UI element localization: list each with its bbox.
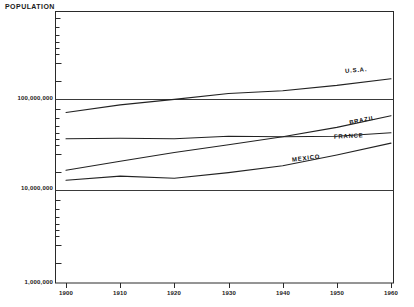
population-line-chart: POPULATION 100,000,000 10,000,000 1,000,… [0,0,414,307]
y-axis-minor-ticks [56,19,62,264]
plot-frame [56,12,394,284]
data-series [66,79,391,181]
plot-border [56,12,394,284]
series-line-france [66,133,391,139]
x-axis-ticks [67,283,392,288]
series-line-brazil [66,116,391,171]
chart-canvas [0,0,414,307]
series-line-usa [66,79,391,113]
